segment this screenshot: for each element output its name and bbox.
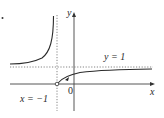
origin-label: 0: [68, 86, 73, 96]
x-axis-label: x: [150, 87, 154, 97]
y-axis-label: y: [67, 8, 71, 18]
right-branch-curve: [58, 69, 152, 83]
vertical-asymptote-label: x = −1: [20, 94, 48, 104]
horizontal-asymptote-label: y = 1: [104, 52, 125, 62]
open-circle-point: [55, 82, 59, 86]
marker-dot: [2, 17, 4, 19]
left-branch-curve: [10, 16, 54, 64]
y-axis-arrow-icon: [72, 12, 76, 17]
